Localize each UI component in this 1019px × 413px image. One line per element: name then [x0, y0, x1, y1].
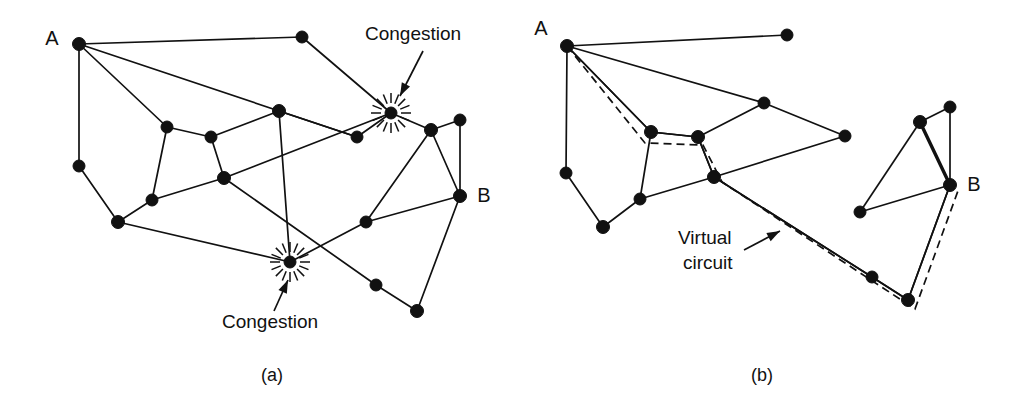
network-link: [279, 111, 290, 262]
network-link: [417, 196, 460, 311]
virtual-circuit-path-dashed: [567, 46, 959, 309]
network-node[interactable]: [370, 279, 382, 291]
node-label-a: A: [45, 27, 59, 49]
network-node[interactable]: [645, 126, 658, 139]
burst-ray: [383, 122, 387, 131]
virtual-circuit-label-line1: Virtual: [678, 227, 732, 248]
virtual-circuit-annotation: Virtualcircuit: [678, 227, 780, 273]
network-node[interactable]: [112, 216, 125, 229]
network-node[interactable]: [560, 167, 572, 179]
network-link: [714, 136, 845, 177]
congestion-burst-icon: [371, 93, 411, 133]
network-link: [860, 185, 950, 212]
network-node[interactable]: [73, 160, 85, 172]
network-link: [640, 132, 651, 199]
network-link: [376, 285, 417, 311]
network-node[interactable]: [866, 271, 878, 283]
node-label-b: B: [477, 184, 490, 206]
network-link: [566, 46, 567, 173]
network-link: [167, 127, 211, 137]
burst-ray: [297, 269, 304, 276]
network-link: [79, 37, 302, 44]
virtual-circuit-path-solid: [567, 46, 950, 300]
network-node[interactable]: [454, 114, 466, 126]
network-node[interactable]: [146, 194, 158, 206]
burst-ray: [398, 120, 405, 127]
network-node[interactable]: [73, 38, 86, 51]
network-node[interactable]: [561, 40, 574, 53]
burst-ray: [395, 122, 399, 131]
node-label-b: B: [967, 173, 980, 195]
network-node[interactable]: [839, 130, 851, 142]
network-link: [366, 130, 431, 222]
network-node[interactable]: [854, 206, 866, 218]
burst-ray: [395, 95, 399, 104]
network-link-highlighted: [920, 122, 950, 185]
network-node[interactable]: [161, 121, 173, 133]
network-link: [698, 103, 764, 137]
network-node[interactable]: [411, 305, 424, 318]
congestion-bottom: Congestion: [222, 280, 318, 332]
network-link: [79, 166, 118, 222]
burst-ray: [272, 266, 281, 270]
network-link: [290, 222, 366, 262]
network-link: [764, 103, 845, 136]
network-node[interactable]: [273, 105, 286, 118]
node-label-a: A: [534, 17, 548, 39]
network-link: [566, 173, 603, 227]
burst-ray: [282, 244, 286, 253]
network-link: [279, 111, 357, 137]
burst-ray: [276, 269, 283, 276]
congestion-node[interactable]: [284, 256, 296, 268]
network-node[interactable]: [902, 294, 915, 307]
network-node[interactable]: [634, 193, 646, 205]
burst-ray: [294, 271, 298, 280]
burst-ray: [373, 105, 382, 109]
network-node[interactable]: [758, 97, 770, 109]
network-link: [118, 222, 290, 262]
network-link: [302, 37, 391, 113]
burst-ray: [282, 271, 286, 280]
congestion-node[interactable]: [385, 107, 397, 119]
annotation-label: Congestion: [365, 23, 461, 44]
network-node[interactable]: [360, 216, 372, 228]
network-link: [79, 44, 167, 127]
panel-caption: (b): [751, 365, 773, 385]
burst-ray: [398, 99, 405, 106]
network-link: [366, 196, 460, 222]
congestion-burst-icon: [270, 242, 310, 282]
network-congestion-figure: ABCongestionCongestion(a)ABVirtualcircui…: [0, 0, 1019, 413]
network-link: [431, 130, 460, 196]
burst-ray: [400, 105, 409, 109]
network-node[interactable]: [944, 101, 956, 113]
network-node[interactable]: [914, 116, 927, 129]
network-node[interactable]: [708, 171, 721, 184]
annotation-arrowhead: [400, 82, 410, 96]
panel-b: ABVirtualcircuit(b): [534, 17, 980, 384]
network-node[interactable]: [692, 131, 705, 144]
network-node[interactable]: [944, 179, 957, 192]
network-node[interactable]: [296, 31, 308, 43]
virtual-circuit-label-line2: circuit: [683, 252, 733, 273]
annotation-arrowhead: [766, 231, 780, 241]
figure-canvas: ABCongestionCongestion(a)ABVirtualcircui…: [0, 0, 1019, 413]
network-link: [567, 46, 764, 103]
burst-ray: [294, 244, 298, 253]
network-node[interactable]: [454, 190, 467, 203]
network-link: [567, 35, 787, 46]
network-node[interactable]: [351, 131, 363, 143]
network-link: [211, 111, 279, 137]
network-link: [860, 122, 920, 212]
network-node[interactable]: [597, 221, 610, 234]
panel-a: ABCongestionCongestion(a): [45, 23, 490, 385]
network-link: [152, 127, 167, 200]
network-link: [224, 178, 376, 285]
burst-ray: [276, 248, 283, 255]
network-node[interactable]: [205, 131, 217, 143]
network-node[interactable]: [781, 29, 793, 41]
panel-caption: (a): [261, 365, 283, 385]
network-node[interactable]: [425, 124, 438, 137]
network-node[interactable]: [218, 172, 231, 185]
network-link: [152, 178, 224, 200]
burst-ray: [400, 117, 409, 121]
